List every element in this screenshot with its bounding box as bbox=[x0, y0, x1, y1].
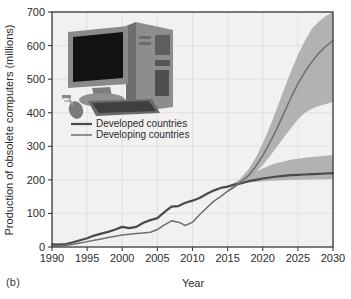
x-tick-label: 2025 bbox=[286, 252, 310, 264]
legend-label: Developed countries bbox=[96, 118, 187, 129]
legend-label: Developing countries bbox=[96, 129, 189, 140]
desktop-computer-photo bbox=[62, 22, 173, 121]
obsolete-computers-chart: 199019952000200520102015202020252030 010… bbox=[0, 0, 351, 299]
figure-panel-b: 199019952000200520102015202020252030 010… bbox=[0, 0, 351, 299]
y-tick-label: 700 bbox=[27, 6, 45, 18]
y-tick-label: 600 bbox=[27, 40, 45, 52]
x-tick-label: 1995 bbox=[75, 252, 99, 264]
y-tick-label: 400 bbox=[27, 107, 45, 119]
x-tick-label: 2020 bbox=[251, 252, 275, 264]
x-tick-label: 2015 bbox=[215, 252, 239, 264]
panel-label: (b) bbox=[6, 276, 20, 288]
y-axis-title: Production of obsolete computers (millio… bbox=[3, 25, 15, 236]
x-tick-label: 1990 bbox=[40, 252, 64, 264]
x-tick-labels: 199019952000200520102015202020252030 bbox=[40, 252, 345, 264]
y-tick-label: 0 bbox=[39, 241, 45, 253]
y-tick-label: 200 bbox=[27, 174, 45, 186]
x-tick-label: 2030 bbox=[321, 252, 345, 264]
y-tick-label: 300 bbox=[27, 140, 45, 152]
x-axis-title: Year bbox=[182, 277, 205, 289]
x-tick-label: 2000 bbox=[110, 252, 134, 264]
x-tick-label: 2010 bbox=[180, 252, 204, 264]
y-tick-label: 100 bbox=[27, 207, 45, 219]
y-tick-label: 500 bbox=[27, 73, 45, 85]
x-tick-label: 2005 bbox=[145, 252, 169, 264]
